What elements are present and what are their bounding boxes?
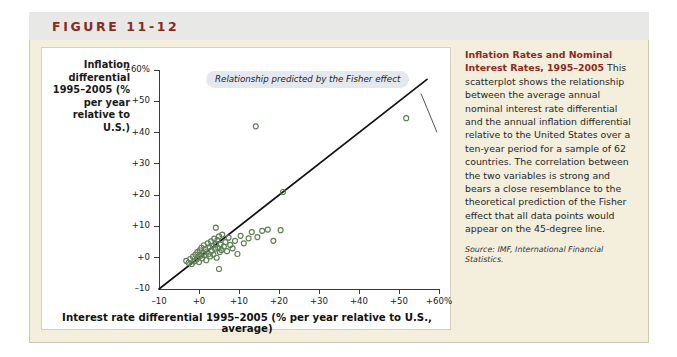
x-tick-label: +50 bbox=[379, 296, 419, 306]
x-tick-label: +30 bbox=[299, 296, 339, 306]
y-tick-label: +60% bbox=[110, 64, 150, 74]
x-tick-label: –10 bbox=[139, 296, 179, 306]
figure-root: FIGURE 11-12 Inflation differential 1995… bbox=[0, 0, 677, 357]
y-tick-label: +50 bbox=[110, 95, 150, 105]
x-tick-label: +40 bbox=[339, 296, 379, 306]
x-tick-label: +0 bbox=[179, 296, 219, 306]
caption-heading: Inflation Rates and Nominal Interest Rat… bbox=[465, 49, 612, 73]
x-tick-label: +20 bbox=[259, 296, 299, 306]
x-axis-title: Interest rate differential 1995–2005 (% … bbox=[48, 312, 446, 334]
caption-body: This scatterplot shows the relationship … bbox=[465, 62, 631, 234]
y-tick-label: +30 bbox=[110, 158, 150, 168]
y-tick-label: +40 bbox=[110, 127, 150, 137]
y-tick-label: +0 bbox=[110, 252, 150, 262]
y-tick-label: +10 bbox=[110, 220, 150, 230]
x-tick-label: +60% bbox=[419, 296, 459, 306]
figure-number-label: FIGURE 11-12 bbox=[52, 19, 179, 34]
fisher-effect-annotation: Relationship predicted by the Fisher eff… bbox=[206, 71, 409, 88]
x-tick-label: +10 bbox=[219, 296, 259, 306]
figure-caption: Inflation Rates and Nominal Interest Rat… bbox=[465, 48, 633, 266]
caption-source: Source: IMF, International Financial Sta… bbox=[465, 245, 633, 266]
y-tick-label: +20 bbox=[110, 189, 150, 199]
y-tick-label: –10 bbox=[110, 283, 150, 293]
